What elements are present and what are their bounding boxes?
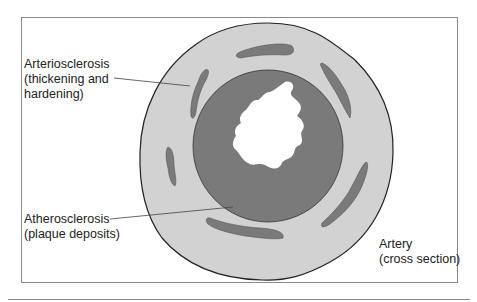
label-line: hardening) bbox=[24, 87, 109, 102]
label-line: Arteriosclerosis bbox=[24, 57, 109, 72]
arteriosclerosis-label: Arteriosclerosis (thickening and hardeni… bbox=[24, 57, 109, 102]
label-line: Atherosclerosis bbox=[24, 212, 120, 227]
atherosclerosis-label: Atherosclerosis (plaque deposits) bbox=[24, 212, 120, 242]
label-line: (plaque deposits) bbox=[24, 227, 120, 242]
artery-label: Artery (cross section) bbox=[379, 237, 460, 267]
label-line: (thickening and bbox=[24, 72, 109, 87]
label-line: Artery bbox=[379, 237, 460, 252]
label-line: (cross section) bbox=[379, 252, 460, 267]
